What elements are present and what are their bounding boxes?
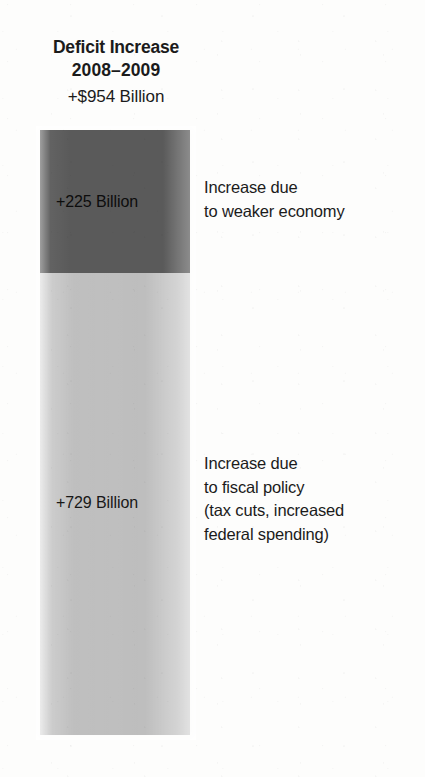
annotation-line: federal spending) [204,523,344,547]
chart-title-line-1: Deficit Increase [26,36,206,58]
chart-title-line-2: 2008–2009 [26,58,206,83]
stacked-bar: +225 Billion +729 Billion [40,130,190,735]
bar-segment-fiscal-policy: +729 Billion [40,273,190,735]
chart-title-block: Deficit Increase 2008–2009 +$954 Billion [26,36,206,110]
annotation-weaker-economy: Increase due to weaker economy [204,176,345,223]
annotation-line: (tax cuts, increased [204,499,344,523]
annotation-fiscal-policy: Increase due to fiscal policy (tax cuts,… [204,452,344,546]
chart-total-subtitle: +$954 Billion [26,83,206,110]
annotation-line: Increase due [204,452,344,476]
annotation-line: to weaker economy [204,200,345,224]
annotation-line: Increase due [204,176,345,200]
segment-value-weaker-economy: +225 Billion [40,192,138,211]
annotation-line: to fiscal policy [204,476,344,500]
bar-segment-weaker-economy: +225 Billion [40,130,190,273]
segment-value-fiscal-policy: +729 Billion [40,493,138,512]
